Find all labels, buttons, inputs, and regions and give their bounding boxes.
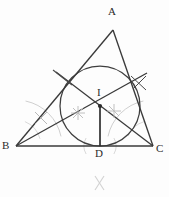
vertex-label-D: D — [95, 148, 103, 159]
vertex-label-A: A — [108, 6, 116, 17]
geometry-figure: A B C I D — [0, 0, 169, 197]
cross-right-of-incenter — [107, 104, 121, 118]
vertex-label-I: I — [97, 87, 101, 98]
stray-x-mark-bottom — [95, 176, 104, 190]
cross-left-of-incenter — [71, 106, 85, 120]
geometry-canvas — [0, 0, 169, 197]
cross-upper-left-AB — [53, 70, 72, 85]
vertex-label-C: C — [156, 143, 163, 154]
incenter-point — [98, 104, 102, 108]
cross-on-side-AB — [35, 112, 47, 124]
vertex-label-B: B — [2, 140, 9, 151]
